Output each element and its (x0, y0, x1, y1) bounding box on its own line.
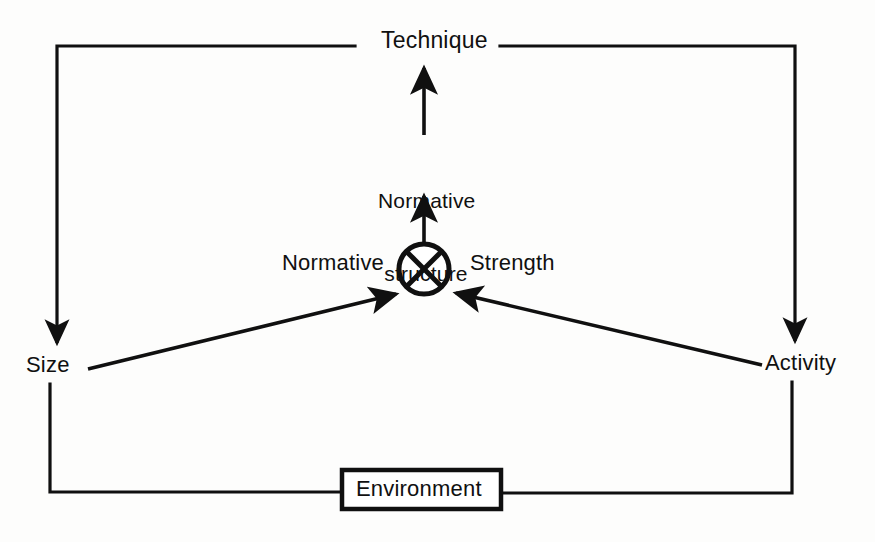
node-label-normative-structure-line2: structure (378, 262, 474, 286)
edge-size-to-environment (50, 384, 342, 492)
edge-technique-to-size (57, 46, 355, 343)
node-label-normative-structure: Normative structure (378, 141, 474, 334)
node-label-strength: Strength (470, 250, 555, 275)
edge-activity-to-environment (501, 382, 792, 493)
node-label-activity: Activity (765, 350, 836, 375)
diagram-canvas: Technique Normative structure Normative … (0, 0, 875, 542)
node-label-size: Size (26, 352, 70, 377)
edge-technique-to-activity (500, 46, 795, 341)
edge-activity-to-interaction (456, 293, 762, 365)
node-label-technique: Technique (381, 27, 488, 53)
node-label-normative: Normative (282, 250, 384, 275)
node-label-normative-structure-line1: Normative (378, 189, 474, 213)
node-label-environment: Environment (356, 476, 482, 501)
edge-size-to-interaction (88, 294, 396, 369)
